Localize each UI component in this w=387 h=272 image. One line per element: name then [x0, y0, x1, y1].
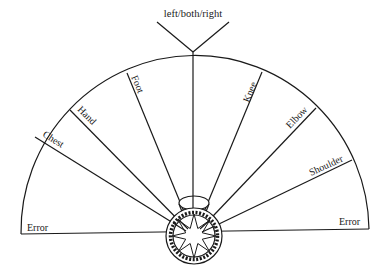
sector-label-knee[interactable]: Knee	[241, 80, 259, 104]
side-selector-label[interactable]: left/both/right	[164, 8, 222, 19]
right-branch	[193, 22, 229, 52]
body-part-selector-diagram: left/both/right Error Chest Hand Foot Kn…	[0, 0, 387, 272]
sector-label-chest[interactable]: Chest	[41, 128, 66, 150]
left-branch	[157, 22, 193, 52]
sector-label-error-right[interactable]: Error	[339, 216, 361, 227]
sector-label-elbow[interactable]: Elbow	[284, 103, 311, 130]
sector-label-error-left[interactable]: Error	[27, 222, 49, 233]
sector-label-shoulder[interactable]: Shoulder	[307, 152, 345, 178]
sector-label-hand[interactable]: Hand	[76, 104, 99, 127]
